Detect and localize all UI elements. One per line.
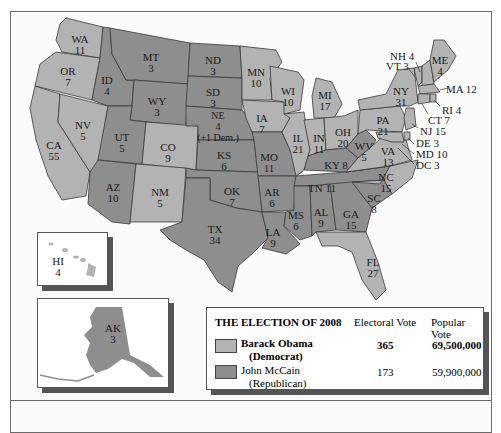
header-popular-vote: Popular Vote [431, 316, 483, 340]
label-vt: VT 3 [386, 61, 409, 72]
label-ky: KY 8 [324, 160, 348, 171]
state-nj[interactable] [404, 108, 416, 130]
label-nc: NC 15 [378, 172, 393, 194]
label-co: CO 9 [160, 142, 175, 164]
label-nm: NM 5 [151, 187, 169, 209]
candidate-mccain: John McCain (Republican) [241, 364, 306, 390]
label-ga: GA 15 [343, 209, 359, 231]
label-in: IN 11 [313, 133, 325, 155]
swatch-republican [215, 365, 237, 379]
label-ut: UT 5 [115, 132, 130, 154]
label-hi: HI 4 [52, 256, 64, 278]
label-nv: NV 5 [75, 120, 91, 142]
label-dc: DC 3 [416, 160, 440, 171]
candidate-name: John McCain [241, 364, 306, 377]
label-ia: IA 7 [256, 113, 268, 135]
label-wi: WI 10 [281, 86, 295, 108]
hawaii-shape [38, 233, 107, 285]
swatch-democrat [215, 339, 237, 353]
label-ak: AK 3 [105, 323, 121, 345]
label-ar: AR 6 [264, 187, 279, 209]
label-id: ID 4 [101, 75, 113, 97]
label-tn: TN 11 [308, 183, 336, 194]
label-ks: KS 6 [217, 150, 231, 172]
label-ca: CA 55 [46, 140, 61, 162]
hawaii-inset: HI 4 [37, 232, 108, 286]
label-mn: MN 10 [247, 67, 265, 89]
election-legend: THE ELECTION OF 2008 Electoral Vote Popu… [206, 307, 484, 390]
label-me: ME 4 [432, 55, 449, 77]
label-la: LA 9 [266, 227, 281, 249]
label-az: AZ 10 [106, 182, 121, 204]
candidate-party: (Republican) [241, 377, 306, 390]
label-tx: TX 34 [208, 224, 223, 246]
state-ma[interactable] [418, 84, 440, 94]
label-va: VA 13 [381, 146, 395, 168]
label-il: IL 21 [293, 133, 304, 155]
label-al: AL 9 [314, 207, 329, 229]
label-pa: PA 21 [376, 115, 389, 137]
label-ny: NY 31 [393, 86, 409, 108]
alaska-inset: AK 3 [37, 298, 169, 388]
label-mi: MI 17 [318, 90, 331, 112]
label-mt: MT 3 [143, 52, 160, 74]
mccain-electoral-vote: 173 [377, 366, 394, 378]
mccain-popular-vote: 59,900,000 [432, 366, 482, 378]
header-electoral-vote: Electoral Vote [354, 316, 416, 328]
label-nj: NJ 15 [420, 126, 446, 137]
label-wv: WV 5 [355, 141, 373, 163]
label-oh: OH 20 [335, 127, 351, 149]
obama-electoral-vote: 365 [377, 339, 394, 351]
label-sc: SC 8 [367, 193, 380, 215]
state-ct[interactable] [418, 94, 430, 104]
label-nd: ND 3 [205, 55, 221, 77]
alaska-shape [38, 299, 168, 387]
label-mo: MO 11 [260, 152, 278, 174]
label-ma: MA 12 [446, 84, 477, 95]
label-ms: MS 6 [288, 210, 304, 232]
label-wa: WA 11 [71, 34, 88, 56]
label-fl: FL 27 [367, 257, 380, 279]
legend-title: THE ELECTION OF 2008 [215, 316, 341, 328]
candidate-party: (Democrat) [241, 350, 313, 363]
obama-popular-vote: 69,500,000 [432, 339, 482, 351]
candidate-name: Barack Obama [241, 337, 313, 350]
label-or: OR 7 [60, 66, 75, 88]
label-sd: SD 3 [206, 87, 220, 109]
bottom-rule [10, 400, 491, 401]
label-wy: WY 3 [148, 96, 166, 118]
label-ok: OK 7 [224, 186, 240, 208]
candidate-obama: Barack Obama (Democrat) [241, 337, 313, 363]
label-ne: NE 4 (+1 Dem.) [197, 110, 239, 143]
